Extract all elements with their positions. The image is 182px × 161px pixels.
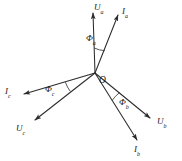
angle-arc-phi-c: [65, 82, 70, 91]
vector-label-Ub: Ub: [157, 117, 167, 128]
angle-label-phi-b: Φb: [119, 98, 129, 109]
vector-label-Ic: Ic: [5, 87, 11, 98]
phasor-diagram-canvas: Ua Ia Ic Uc Ub Ib Φa Φc Φb O: [0, 0, 182, 161]
angle-label-phi-c: Φc: [45, 85, 55, 96]
vector-line-Ia: [95, 15, 118, 73]
angle-label-phi-a: Φa: [86, 34, 96, 45]
angle-arc-phi-a: [94, 48, 105, 51]
origin-label: O: [99, 76, 106, 86]
vector-line-Uc: [35, 73, 95, 120]
phasor-vector-graphic: [0, 0, 182, 161]
vector-label-Ua: Ua: [94, 3, 104, 14]
vector-label-Ia: Ia: [122, 7, 128, 18]
vector-label-Uc: Uc: [16, 124, 25, 135]
vector-label-Ib: Ib: [134, 145, 140, 156]
vector-line-Ic: [24, 73, 95, 94]
